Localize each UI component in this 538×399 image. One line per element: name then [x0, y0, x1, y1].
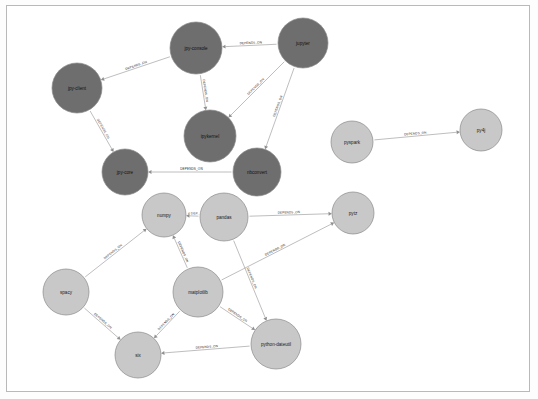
- graph-edge[interactable]: DEPENDS_ON: [148, 167, 231, 174]
- edge-label: DEPENDS_ON: [96, 118, 111, 140]
- node-label: jpy-core: [116, 170, 134, 175]
- node-label: nbconvert: [247, 170, 268, 175]
- graph-edge[interactable]: DEPENDS_ON: [90, 111, 113, 152]
- graph-edge[interactable]: DEPENDS_ON: [154, 311, 180, 338]
- edge-label: DEPENDS_ON: [93, 312, 113, 330]
- graph-edge[interactable]: DEPENDS_ON: [200, 75, 209, 110]
- graph-edge[interactable]: DEPENDS_ON: [374, 130, 460, 140]
- node-label: pytz: [349, 211, 358, 216]
- graph-node-jpy-core[interactable]: jpy-core: [102, 149, 148, 195]
- graph-node-pandas[interactable]: pandas: [200, 193, 248, 241]
- graph-edge[interactable]: < DEP...: [186, 211, 200, 218]
- edge-line: [234, 241, 266, 318]
- graph-node-pytz[interactable]: pytz: [332, 192, 374, 234]
- graph-node-spacy[interactable]: spacy: [43, 269, 89, 315]
- graph-node-ipykernel[interactable]: ipykernel: [184, 110, 236, 162]
- graph-node-jpy-console[interactable]: jpy-console: [170, 22, 222, 74]
- node-label: jpy-client: [67, 86, 87, 91]
- edge-line: [104, 57, 170, 79]
- edge-label: DEPENDS_ON: [157, 312, 175, 331]
- graph-edge[interactable]: DEPENDS_ON: [249, 210, 331, 216]
- edge-label: DEPENDS_ON: [264, 243, 286, 257]
- edge-label: DEPENDS_ON: [180, 167, 203, 171]
- edge-arrowhead-icon: [328, 212, 331, 216]
- node-label: spacy: [60, 290, 73, 295]
- node-label: pyspark: [344, 140, 361, 145]
- edge-label: DEPENDS_ON: [246, 267, 258, 289]
- edge-label: DEPENDS_ON: [240, 40, 263, 45]
- graph-canvas: DEPENDS_ONDEPENDS_ONDEPENDS_ONDEPENDS_ON…: [0, 0, 538, 399]
- node-label: matplotlib: [188, 290, 208, 295]
- edge-line: [156, 311, 179, 336]
- node-label: py4j: [477, 128, 485, 133]
- edge-line: [266, 68, 294, 146]
- edge-line: [84, 308, 118, 337]
- graph-node-nbconvert[interactable]: nbconvert: [233, 148, 281, 196]
- graph-node-jupyter[interactable]: jupyter: [278, 18, 328, 68]
- dependency-graph[interactable]: DEPENDS_ONDEPENDS_ONDEPENDS_ONDEPENDS_ON…: [0, 0, 538, 399]
- graph-edge[interactable]: DEPENDS_ON: [161, 344, 250, 355]
- graph-node-py4j[interactable]: py4j: [460, 109, 502, 151]
- graph-node-six[interactable]: six: [115, 332, 161, 378]
- graph-edge[interactable]: DEPENDS_ON: [101, 57, 170, 81]
- edge-arrowhead-icon: [148, 170, 151, 174]
- edge-label: < DEP...: [188, 211, 200, 215]
- edge-arrowhead-icon: [222, 45, 225, 49]
- edge-label: DEPENDS_ON: [278, 210, 301, 215]
- graph-edge[interactable]: DEPENDS_ON: [84, 308, 120, 340]
- edge-label: DEPENDS_ON: [227, 307, 248, 323]
- node-label: jupyter: [295, 41, 310, 46]
- edge-arrowhead-icon: [251, 327, 255, 331]
- node-label: pandas: [216, 215, 232, 220]
- edge-line: [90, 111, 112, 149]
- node-label: python-dateutil: [261, 342, 291, 347]
- edge-label: DEPENDS_ON: [177, 241, 190, 263]
- node-label: ipykernel: [201, 134, 219, 139]
- graph-edge[interactable]: DEPENDS_ON: [85, 229, 146, 277]
- edge-layer: DEPENDS_ONDEPENDS_ONDEPENDS_ONDEPENDS_ON…: [84, 40, 460, 355]
- edge-line: [85, 231, 144, 277]
- graph-node-jpy-client[interactable]: jpy-client: [52, 63, 102, 113]
- graph-edge[interactable]: DEPENDS_ON: [220, 307, 255, 330]
- graph-node-numpy[interactable]: numpy: [142, 193, 186, 237]
- edge-arrowhead-icon: [203, 107, 207, 111]
- node-label: numpy: [157, 213, 171, 218]
- node-label: six: [135, 353, 141, 358]
- edge-line: [220, 307, 252, 328]
- edge-arrowhead-icon: [456, 130, 460, 134]
- edge-arrowhead-icon: [143, 229, 147, 233]
- graph-node-python-dateutil[interactable]: python-dateutil: [251, 319, 301, 369]
- node-layer: jpy-consolejupyterjpy-clientipykernelpys…: [43, 18, 502, 378]
- edge-arrowhead-icon: [161, 351, 165, 355]
- graph-edge[interactable]: DEPENDS_ON: [234, 241, 267, 321]
- graph-edge[interactable]: DEPENDS_ON: [172, 235, 189, 268]
- graph-node-pyspark[interactable]: pyspark: [331, 121, 373, 163]
- edge-label: DEPENDS_ON: [246, 77, 265, 96]
- graph-node-matplotlib[interactable]: matplotlib: [173, 267, 223, 317]
- node-label: jpy-console: [183, 46, 208, 51]
- edge-label: DEPENDS_ON: [103, 243, 123, 260]
- graph-edge[interactable]: DEPENDS_ON: [264, 68, 294, 149]
- graph-edge[interactable]: DEPENDS_ON: [222, 40, 276, 48]
